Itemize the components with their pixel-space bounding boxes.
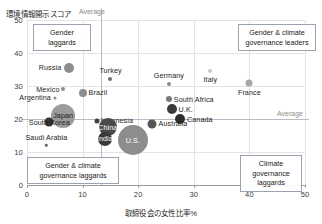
x-axis-tick-mark bbox=[305, 186, 306, 188]
y-axis-tick: 30 bbox=[14, 82, 23, 91]
annotation-gender-climate-leaders: Gender & climate governance leaders bbox=[238, 24, 316, 51]
x-axis-tick: 30 bbox=[189, 190, 198, 199]
point-label-australia: Australia bbox=[159, 119, 188, 128]
gridline-vertical bbox=[138, 20, 139, 185]
gridline-horizontal bbox=[27, 20, 305, 21]
point-label-u-s-: U.S. bbox=[126, 136, 140, 145]
annotation-climate-laggards: Climate governance laggards bbox=[240, 155, 302, 192]
average-label-right: Average bbox=[277, 110, 303, 117]
x-axis-tick-mark bbox=[138, 186, 139, 188]
point-label-italy: Italy bbox=[203, 75, 217, 84]
x-axis-title: 取締役会の女性比率% bbox=[0, 207, 322, 218]
point-label-saudi-arabia: Saudi Arabia bbox=[25, 133, 67, 142]
point-label-brazil: Brazil bbox=[89, 88, 108, 97]
x-axis-tick: 10 bbox=[78, 190, 87, 199]
gridline-horizontal bbox=[27, 86, 305, 87]
x-axis-tick-mark bbox=[194, 186, 195, 188]
bubble-italy[interactable] bbox=[208, 69, 212, 73]
gridline-horizontal bbox=[27, 152, 305, 153]
y-axis-tick: 0 bbox=[19, 181, 23, 190]
bubble-australia[interactable] bbox=[148, 119, 157, 128]
x-axis-tick: 20 bbox=[134, 190, 143, 199]
x-axis-tick: 0 bbox=[25, 190, 29, 199]
y-axis-tick: 10 bbox=[14, 148, 23, 157]
x-axis-tick-mark bbox=[27, 186, 28, 188]
point-label-canada: Canada bbox=[187, 115, 213, 124]
point-label-india: India bbox=[97, 134, 113, 143]
point-label-south-africa: South Africa bbox=[174, 95, 214, 104]
average-label-top: Average bbox=[79, 8, 105, 15]
point-label-france: France bbox=[238, 88, 261, 97]
point-label-turkey: Turkey bbox=[99, 66, 121, 75]
bubble-south-africa[interactable] bbox=[166, 96, 172, 102]
chart-screenshot: 環境情報開示スコア 取締役会の女性比率% AverageAverage50403… bbox=[0, 0, 322, 224]
y-axis-tick: 50 bbox=[14, 16, 23, 25]
x-axis-tick-mark bbox=[83, 186, 84, 188]
bubble-argentina[interactable] bbox=[53, 96, 56, 99]
annotation-gender-climate-laggards: Gender & climate governance laggards bbox=[27, 157, 119, 184]
bubble-brazil[interactable] bbox=[79, 89, 87, 97]
y-axis-tick: 40 bbox=[14, 49, 23, 58]
annotation-gender-laggards: Gender laggards bbox=[33, 24, 91, 51]
point-label-germany: Germany bbox=[154, 71, 184, 80]
point-label-south-korea: South Korea bbox=[29, 118, 70, 127]
point-label-russia: Russia bbox=[39, 63, 62, 72]
bubble-turkey[interactable] bbox=[108, 77, 112, 81]
point-label-argentina: Argentina bbox=[19, 93, 51, 102]
bubble-germany[interactable] bbox=[167, 82, 171, 86]
bubble-france[interactable] bbox=[246, 79, 253, 86]
bubble-mexico[interactable] bbox=[61, 87, 65, 91]
point-label-china: China bbox=[98, 123, 117, 132]
bubble-u-k-[interactable] bbox=[167, 104, 177, 114]
gridline-horizontal bbox=[27, 53, 305, 54]
point-label-u-k-: U.K. bbox=[179, 105, 193, 114]
y-axis-tick: 20 bbox=[14, 115, 23, 124]
bubble-russia[interactable] bbox=[64, 63, 74, 73]
